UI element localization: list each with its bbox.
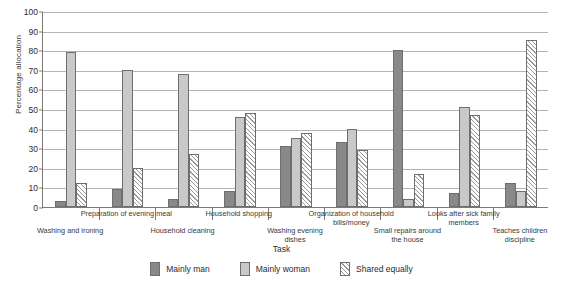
y-tick-label: 0 [33, 203, 38, 213]
category-label-line: Household cleaning [122, 227, 243, 236]
bar [393, 50, 404, 207]
legend-swatch-man [150, 262, 160, 276]
bar [178, 74, 189, 207]
bar-group [268, 12, 324, 207]
bar-group [493, 12, 549, 207]
bar-group [212, 12, 268, 207]
category-label: Teaches childrendiscipline [459, 227, 563, 244]
legend-item[interactable]: Mainly woman [240, 262, 310, 276]
bar [76, 183, 87, 207]
y-tick-label: 50 [29, 105, 38, 115]
plot-area: 0102030405060708090100 [42, 12, 548, 208]
category-label: Household cleaning [122, 227, 243, 236]
bar-group [99, 12, 155, 207]
y-tick-label: 100 [24, 7, 38, 17]
bar [55, 201, 66, 207]
category-label: Household shopping [178, 210, 299, 219]
category-label-line: dishes [235, 236, 356, 245]
bar [336, 142, 347, 207]
bar [224, 191, 235, 207]
bar [245, 113, 256, 207]
category-label: Looks after sick familymembers [403, 210, 524, 227]
category-label-line: Household shopping [178, 210, 299, 219]
bar [133, 168, 144, 207]
bar-group [43, 12, 99, 207]
bar [414, 174, 425, 207]
bar [526, 40, 537, 207]
y-tick-label: 80 [29, 46, 38, 56]
legend-swatch-woman [240, 262, 250, 276]
category-label: Washing eveningdishes [235, 227, 356, 244]
category-label: Preparation of evening meal [66, 210, 187, 219]
y-tick-label: 20 [29, 164, 38, 174]
bar [66, 52, 77, 207]
bar [301, 133, 312, 207]
bar [516, 191, 527, 207]
bar-group [155, 12, 211, 207]
bars-layer [43, 12, 548, 207]
bar-group [324, 12, 380, 207]
category-label-line: Washing and ironing [10, 227, 131, 236]
y-tick-label: 10 [29, 183, 38, 193]
bar [235, 117, 246, 207]
x-axis-title: Task [0, 244, 563, 254]
bar [470, 115, 481, 207]
bar [459, 107, 470, 207]
bar-group [380, 12, 436, 207]
bar [112, 189, 123, 207]
y-tick-label: 30 [29, 144, 38, 154]
legend-label: Mainly woman [256, 264, 310, 274]
grouped-bar-chart: Percentage allocation 010203040506070809… [0, 0, 563, 288]
bar-group [437, 12, 493, 207]
category-label-line: discipline [459, 236, 563, 245]
bar [168, 199, 179, 207]
category-label: Washing and ironing [10, 227, 131, 236]
category-label: Small repairs aroundthe house [347, 227, 468, 244]
bar [122, 70, 133, 207]
legend-label: Mainly man [166, 264, 209, 274]
y-tick-label: 40 [29, 125, 38, 135]
legend-item[interactable]: Mainly man [150, 262, 209, 276]
y-axis-title: Percentage allocation [14, 5, 23, 145]
bar [357, 150, 368, 207]
bar [347, 129, 358, 207]
category-label-line: Preparation of evening meal [66, 210, 187, 219]
bar [505, 183, 516, 207]
category-label-line: the house [347, 236, 468, 245]
legend-swatch-shared [340, 262, 350, 276]
category-label: Organization of householdbills/money [291, 210, 412, 227]
y-tick-label: 70 [29, 66, 38, 76]
bar [280, 146, 291, 207]
bar [189, 154, 200, 207]
bar [449, 193, 460, 207]
y-tick-label: 60 [29, 85, 38, 95]
legend-label: Shared equally [356, 264, 413, 274]
bar [403, 199, 414, 207]
y-tick-label: 90 [29, 27, 38, 37]
legend: Mainly manMainly womanShared equally [0, 262, 563, 276]
legend-item[interactable]: Shared equally [340, 262, 413, 276]
bar [291, 138, 302, 207]
